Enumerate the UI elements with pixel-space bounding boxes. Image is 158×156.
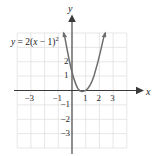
equation-minus: − [40, 37, 45, 47]
x-tick-label-2: 2 [97, 94, 102, 103]
y-tick-label-1: 1 [64, 71, 69, 80]
y-tick-label-neg1: −1 [60, 100, 70, 109]
y-tick-label-neg3: −3 [60, 129, 70, 138]
coordinate-plane-svg [0, 0, 158, 156]
x-tick-label-1: 1 [83, 94, 88, 103]
y-tick-label-2: 2 [64, 57, 69, 66]
y-axis-label: y [68, 4, 72, 14]
equation-equals: = [18, 37, 23, 47]
graph-figure: x y −3 −1 1 2 3 2 1 −1 −2 −3 y = 2(x − 1… [0, 0, 158, 156]
x-axis-label: x [146, 87, 150, 97]
equation-variable: x [33, 37, 37, 47]
x-tick-label-neg3: −3 [25, 94, 35, 103]
x-tick-label-3: 3 [110, 94, 115, 103]
equation-exponent: 2 [56, 35, 59, 42]
equation-label: y = 2(x − 1)2 [11, 37, 59, 47]
equation-lhs: y [11, 37, 15, 47]
y-tick-label-neg2: −2 [60, 115, 70, 124]
